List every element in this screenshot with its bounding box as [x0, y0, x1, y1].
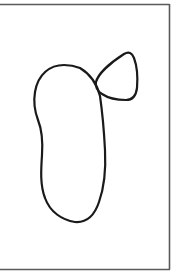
frame: [0, 4, 170, 270]
sketch-canvas: [0, 0, 178, 279]
small-blob-outline: [96, 53, 138, 100]
sketch-svg: [0, 0, 178, 279]
large-blob-outline: [34, 65, 105, 222]
